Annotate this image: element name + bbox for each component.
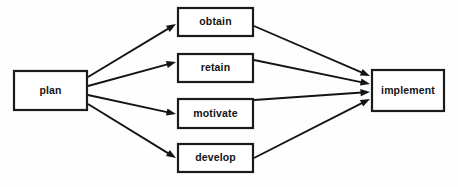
edge-layer — [88, 24, 370, 158]
node-develop[interactable]: develop — [178, 144, 253, 172]
edge-line — [254, 60, 362, 82]
arrow-head-icon — [166, 61, 176, 68]
node-label-obtain: obtain — [199, 15, 231, 27]
edge-motivate-to-implement — [254, 89, 370, 100]
node-implement[interactable]: implement — [372, 70, 444, 111]
edge-line — [88, 64, 168, 86]
flow-diagram-svg: planobtainretainmotivatedevelopimplement — [0, 0, 458, 187]
edge-plan-to-obtain — [88, 24, 176, 77]
arrow-head-icon — [360, 79, 370, 86]
node-retain[interactable]: retain — [178, 54, 253, 82]
edge-line — [88, 95, 168, 112]
node-label-develop: develop — [195, 151, 236, 163]
node-label-plan: plan — [39, 84, 61, 96]
edge-retain-to-implement — [254, 60, 370, 86]
node-label-motivate: motivate — [193, 107, 237, 119]
arrow-head-icon — [166, 24, 176, 32]
edge-line — [254, 103, 363, 158]
arrow-head-icon — [166, 108, 176, 115]
edge-line — [254, 26, 363, 73]
edge-line — [88, 104, 169, 154]
arrow-head-icon — [360, 99, 370, 107]
node-label-retain: retain — [201, 61, 231, 73]
edge-plan-to-retain — [88, 61, 176, 86]
node-motivate[interactable]: motivate — [178, 99, 253, 128]
arrow-head-icon — [360, 89, 370, 96]
node-plan[interactable]: plan — [14, 71, 87, 110]
arrow-head-icon — [360, 69, 370, 76]
edge-obtain-to-implement — [254, 26, 370, 76]
flow-diagram-canvas: planobtainretainmotivatedevelopimplement — [0, 0, 458, 187]
edge-develop-to-implement — [254, 99, 370, 158]
arrow-head-icon — [166, 150, 176, 158]
node-obtain[interactable]: obtain — [178, 8, 253, 36]
edge-line — [88, 28, 169, 77]
edge-line — [254, 93, 362, 100]
node-layer: planobtainretainmotivatedevelopimplement — [14, 8, 444, 172]
node-label-implement: implement — [381, 84, 435, 96]
